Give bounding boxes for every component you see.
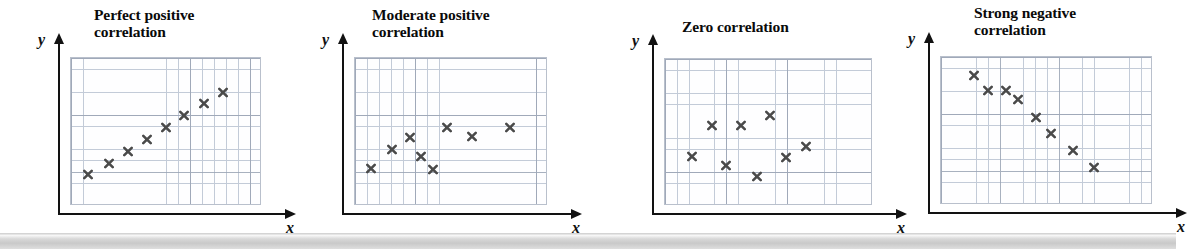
y-axis-label: y: [38, 31, 45, 49]
panel-perfect-positive: Perfect positive correlationyx: [18, 0, 321, 249]
panel-strong-negative: Strong negative correlationyx: [900, 0, 1191, 249]
plot-grid-zero: [664, 58, 872, 205]
data-point: [1088, 159, 1099, 177]
y-axis-line: [652, 44, 654, 215]
y-axis-label: y: [322, 31, 329, 49]
data-point: [427, 161, 438, 179]
data-point: [1045, 125, 1056, 143]
y-axis-line: [342, 43, 344, 215]
data-point: [141, 131, 152, 149]
data-point: [968, 67, 979, 85]
x-axis-arrow-icon: [571, 209, 582, 219]
data-point: [122, 143, 133, 161]
data-point: [736, 117, 747, 135]
page-bottom-band: [0, 236, 1176, 249]
data-point: [82, 166, 93, 184]
x-axis-label: x: [1177, 218, 1185, 236]
data-point: [707, 117, 718, 135]
data-point: [720, 157, 731, 175]
data-point: [466, 128, 477, 146]
y-axis-line: [928, 42, 930, 214]
plot-grid-strong-negative: [940, 56, 1152, 204]
y-axis-line: [58, 43, 60, 215]
y-axis-arrow-icon: [54, 33, 64, 44]
data-point: [781, 149, 792, 167]
plot-grid-moderate-positive: [354, 57, 547, 205]
data-point: [404, 129, 415, 147]
data-point: [365, 160, 376, 178]
panel-title-perfect-positive: Perfect positive correlation: [94, 6, 194, 40]
x-axis-line: [652, 213, 896, 215]
data-point: [415, 148, 426, 166]
panel-title-zero: Zero correlation: [682, 18, 789, 35]
y-axis-arrow-icon: [338, 33, 348, 44]
data-point: [179, 107, 190, 125]
data-point: [441, 119, 452, 137]
data-point: [1067, 142, 1078, 160]
data-point: [160, 119, 171, 137]
data-point: [1001, 82, 1012, 100]
data-point: [505, 119, 516, 137]
x-axis-line: [58, 213, 285, 215]
panel-title-moderate-positive: Moderate positive correlation: [372, 6, 490, 40]
x-axis-arrow-icon: [1176, 208, 1187, 218]
data-point: [752, 168, 763, 186]
data-point: [982, 82, 993, 100]
y-axis-label: y: [908, 30, 915, 48]
x-axis-line: [928, 212, 1176, 214]
panel-title-strong-negative: Strong negative correlation: [974, 4, 1076, 38]
grid-major-lines: [665, 59, 871, 204]
data-point: [686, 148, 697, 166]
data-point: [1013, 91, 1024, 109]
plot-grid-perfect-positive: [70, 57, 261, 205]
panel-zero: Zero correlationyx: [604, 0, 932, 249]
data-point: [218, 84, 229, 102]
x-axis-line: [342, 213, 571, 215]
data-point: [199, 95, 210, 113]
y-axis-arrow-icon: [648, 34, 658, 45]
data-point: [765, 107, 776, 125]
data-point: [103, 155, 114, 173]
data-point: [800, 138, 811, 156]
y-axis-label: y: [632, 32, 639, 50]
x-axis-arrow-icon: [285, 209, 296, 219]
panel-moderate-positive: Moderate positive correlationyx: [308, 0, 607, 249]
y-axis-arrow-icon: [924, 32, 934, 43]
data-point: [1030, 109, 1041, 127]
data-point: [387, 141, 398, 159]
